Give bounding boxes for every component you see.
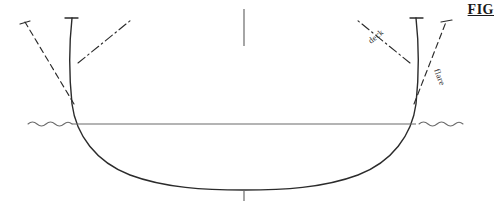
deck-line-left: [78, 20, 131, 63]
water-symbol-left: [28, 122, 72, 126]
flare-label: flare: [432, 67, 447, 87]
deck-line-right: [357, 20, 410, 63]
water-symbol-right: [419, 122, 463, 126]
figure-caption: FIG: [468, 2, 494, 18]
flare-line-left: [25, 22, 74, 104]
flare-line-right-cap-tick: [441, 20, 452, 22]
